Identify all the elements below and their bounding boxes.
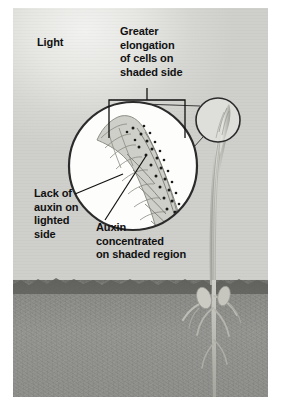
label-light: Light [37,36,63,50]
magnifier-lens [69,102,197,240]
label-greater-elongation: Greater elongation of cells on shaded si… [120,25,182,79]
illustration-plate: Light Greater elongation of cells on sha… [13,8,268,397]
lateral-root-6 [202,344,213,368]
lateral-root-3 [197,308,213,335]
figure-root: Light Greater elongation of cells on sha… [0,0,282,411]
root-system [183,280,241,397]
label-auxin-concentrated: Auxin concentrated on shaded region [96,221,186,262]
label-lack-of-auxin: Lack of auxin on lighted side [34,187,78,241]
lateral-root-4 [215,310,229,336]
primary-root [212,280,216,397]
